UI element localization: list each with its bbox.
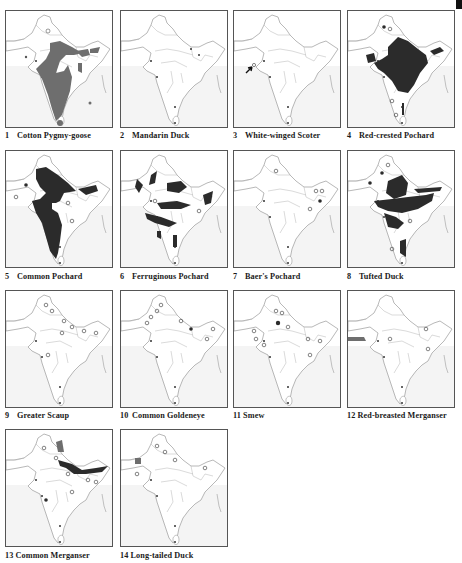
range-map-white-winged-scoter xyxy=(234,11,340,127)
range-map-long-tailed-duck xyxy=(121,430,227,546)
map-caption-12: 12 Red-breasted Merganser xyxy=(347,411,447,420)
map-caption-14: 14 Long-tailed Duck xyxy=(120,551,193,560)
range-map-smew xyxy=(234,291,340,407)
map-caption-3: 3White-winged Scoter xyxy=(233,131,320,140)
map-caption-8: 8Tufted Duck xyxy=(347,272,404,281)
range-map-common-goldeneye xyxy=(121,291,227,407)
map-caption-6: 6Ferruginous Pochard xyxy=(120,272,209,281)
map-caption-11: 11 Smew xyxy=(233,411,264,420)
map-caption-2: 2Mandarin Duck xyxy=(120,131,190,140)
map-caption-1: 1Cotton Pygmy-goose xyxy=(5,131,91,140)
map-caption-5: 5Common Pochard xyxy=(5,272,82,281)
map-panel-5 xyxy=(5,150,113,268)
map-panel-9 xyxy=(5,290,113,408)
map-caption-10: 10Common Goldeneye xyxy=(120,411,205,420)
map-caption-13: 13 Common Merganser xyxy=(5,551,90,560)
range-map-tufted-duck xyxy=(348,151,454,267)
map-panel-11 xyxy=(233,290,341,408)
range-map-baers-pochard xyxy=(234,151,340,267)
map-panel-3 xyxy=(233,10,341,128)
range-map-common-merganser xyxy=(6,430,112,546)
map-panel-6 xyxy=(120,150,228,268)
map-panel-2 xyxy=(120,10,228,128)
map-panel-1 xyxy=(5,10,113,128)
map-panel-12 xyxy=(347,290,455,408)
range-map-common-pochard xyxy=(6,151,112,267)
range-map-red-breasted-merganser xyxy=(348,291,454,407)
page-edge-tab xyxy=(456,0,462,9)
map-panel-4 xyxy=(347,10,455,128)
range-map-ferruginous-pochard xyxy=(121,151,227,267)
range-map-red-crested-pochard xyxy=(348,11,454,127)
range-map-mandarin-duck xyxy=(121,11,227,127)
map-panel-7 xyxy=(233,150,341,268)
map-caption-9: 9Greater Scaup xyxy=(5,411,69,420)
map-panel-13 xyxy=(5,429,113,547)
map-panel-14 xyxy=(120,429,228,547)
range-map-cotton-pygmy-goose xyxy=(6,11,112,127)
map-caption-4: 4Red-crested Pochard xyxy=(347,131,434,140)
map-caption-7: 7Baer's Pochard xyxy=(233,272,300,281)
range-map-greater-scaup xyxy=(6,291,112,407)
map-panel-8 xyxy=(347,150,455,268)
map-panel-10 xyxy=(120,290,228,408)
